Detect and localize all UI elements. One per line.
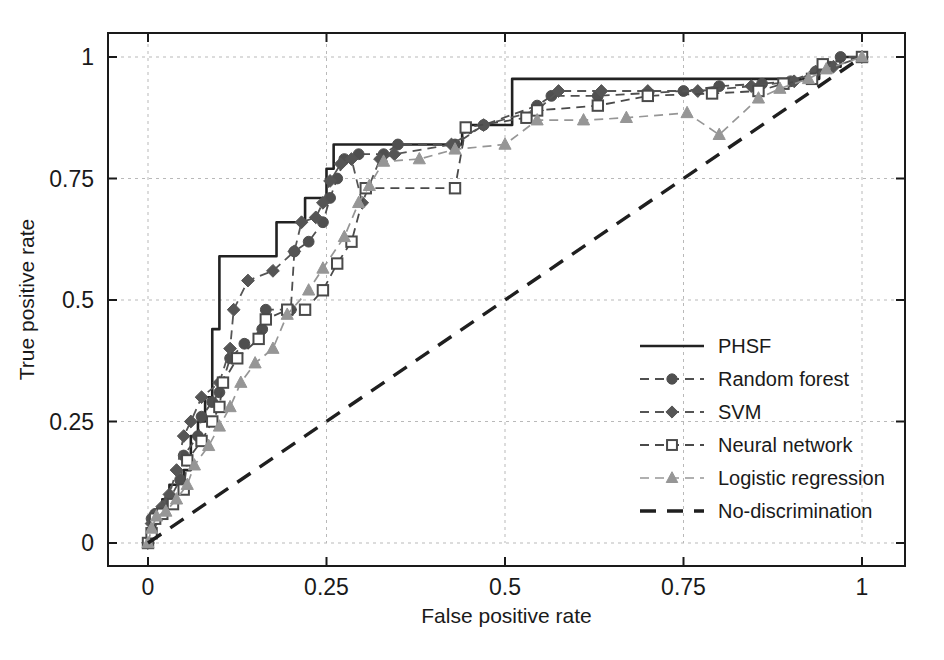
- x-tick-label: 0.25: [304, 574, 349, 600]
- marker-square-open: [461, 122, 471, 132]
- x-tick-label: 0.5: [489, 574, 521, 600]
- y-tick-label: 1: [81, 44, 94, 70]
- marker-square-open: [667, 440, 677, 450]
- marker-square-open: [450, 183, 460, 193]
- marker-square-open: [182, 455, 192, 465]
- x-tick-label: 0: [142, 574, 155, 600]
- legend-label: PHSF: [718, 335, 771, 357]
- marker-circle: [303, 236, 314, 247]
- marker-square-open: [218, 377, 228, 387]
- marker-square-open: [643, 91, 653, 101]
- roc-chart-canvas: 00.250.50.75100.250.50.751False positive…: [0, 0, 944, 660]
- y-tick-label: 0.25: [49, 409, 94, 435]
- marker-square-open: [196, 436, 206, 446]
- legend-label: Neural network: [718, 434, 854, 456]
- marker-square-open: [332, 258, 342, 268]
- x-tick-label: 0.75: [661, 574, 706, 600]
- marker-square-open: [214, 402, 224, 412]
- marker-circle: [667, 374, 677, 384]
- x-axis-title: False positive rate: [421, 604, 591, 627]
- marker-square-open: [232, 353, 242, 363]
- marker-square-open: [300, 305, 310, 315]
- x-tick-label: 1: [856, 574, 869, 600]
- marker-square-open: [261, 314, 271, 324]
- legend-label: Random forest: [718, 368, 850, 390]
- marker-circle: [196, 411, 207, 422]
- y-tick-label: 0.5: [62, 287, 94, 313]
- legend-label: SVM: [718, 401, 761, 423]
- marker-square-open: [253, 334, 263, 344]
- y-tick-label: 0.75: [49, 166, 94, 192]
- marker-square-open: [707, 88, 717, 98]
- y-axis-title: True positive rate: [15, 219, 38, 380]
- marker-square-open: [207, 416, 217, 426]
- marker-square-open: [318, 285, 328, 295]
- legend-label: Logistic regression: [718, 467, 885, 489]
- roc-figure: 00.250.50.75100.250.50.751False positive…: [0, 0, 944, 660]
- marker-square-open: [593, 100, 603, 110]
- y-tick-label: 0: [81, 530, 94, 556]
- marker-square-open: [521, 113, 531, 123]
- legend-label: No-discrimination: [718, 500, 873, 522]
